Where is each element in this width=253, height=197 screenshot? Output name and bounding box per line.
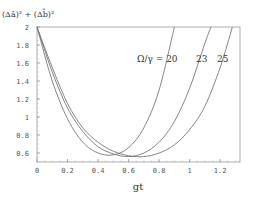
- y-tick-label: 0.8: [16, 132, 29, 140]
- y-tick-label: 1.4: [16, 78, 29, 86]
- curve-annotation: 23: [196, 54, 208, 64]
- y-tick-label: 2: [25, 24, 29, 32]
- x-tick-label: 1: [188, 167, 192, 175]
- annotations: Ω/γ = 202325: [137, 54, 229, 64]
- curve-25: [37, 27, 232, 157]
- y-tick-label: 1: [25, 114, 29, 122]
- plot-border: [37, 27, 240, 162]
- curve-annotation: Ω/γ = 20: [137, 54, 178, 64]
- data-curves: [37, 27, 232, 157]
- x-tick-label: 0.8: [153, 167, 166, 175]
- chart: 00.20.40.60.811.20.60.811.21.41.61.82 Ω/…: [0, 0, 253, 197]
- curve-23: [37, 27, 211, 157]
- y-axis-label: (Δâ)² + (Δb̂)²: [2, 8, 54, 19]
- x-tick-label: 0.4: [92, 167, 105, 175]
- curve-annotation: 25: [217, 54, 229, 64]
- x-tick-label: 0.2: [61, 167, 74, 175]
- plot-frame: [37, 27, 240, 162]
- curve-20: [37, 27, 174, 155]
- y-tick-label: 1.6: [16, 60, 29, 68]
- x-tick-label: 0: [35, 167, 39, 175]
- x-axis-label: gt: [133, 181, 143, 192]
- y-tick-label: 0.6: [16, 150, 29, 158]
- x-tick-label: 0.6: [122, 167, 135, 175]
- x-tick-label: 1.2: [214, 167, 227, 175]
- y-tick-label: 1.2: [16, 96, 29, 104]
- y-tick-label: 1.8: [16, 42, 29, 50]
- axis-ticks: 00.20.40.60.811.20.60.811.21.41.61.82: [16, 24, 235, 176]
